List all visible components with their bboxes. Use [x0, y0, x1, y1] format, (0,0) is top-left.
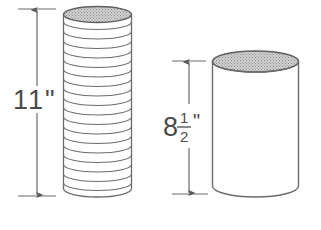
right-dimension-group: 8 1 2 " — [163, 61, 208, 194]
left-cylinder-top-ellipse — [64, 7, 132, 23]
right-dimension-label: 8 1 2 " — [163, 109, 200, 145]
diagram-canvas: 11" — [0, 0, 321, 230]
right-dim-whole-number: 8 — [163, 112, 178, 142]
right-dim-fraction-numerator: 1 — [180, 109, 188, 126]
left-cylinder — [64, 7, 132, 198]
right-dim-fraction-denominator: 2 — [180, 128, 188, 145]
left-dimension-label: 11" — [13, 85, 57, 115]
right-cylinder-body — [213, 62, 299, 198]
left-dimension-group: 11" — [13, 9, 57, 196]
right-cylinder — [213, 51, 299, 197]
right-dim-inch-mark: " — [193, 110, 200, 132]
cylinders-diagram: 11" — [0, 0, 321, 230]
